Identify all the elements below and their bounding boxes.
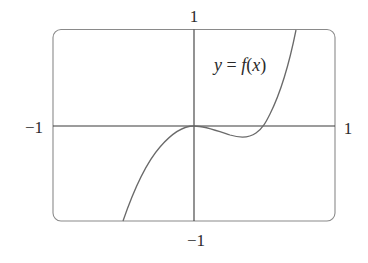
x-max-label: 1 xyxy=(344,119,353,138)
curve-label-y: y xyxy=(212,55,222,75)
x-min-label: −1 xyxy=(25,118,43,137)
curve-label-equals: = xyxy=(222,55,241,75)
function-graph: 1 −1 −1 1 y = f(x) xyxy=(0,0,368,263)
y-max-label: 1 xyxy=(190,7,199,26)
curve-label: y = f(x) xyxy=(212,55,266,76)
curve-label-x: x xyxy=(251,55,260,75)
y-min-label: −1 xyxy=(187,231,205,250)
curve-label-close-paren: ) xyxy=(260,55,266,76)
